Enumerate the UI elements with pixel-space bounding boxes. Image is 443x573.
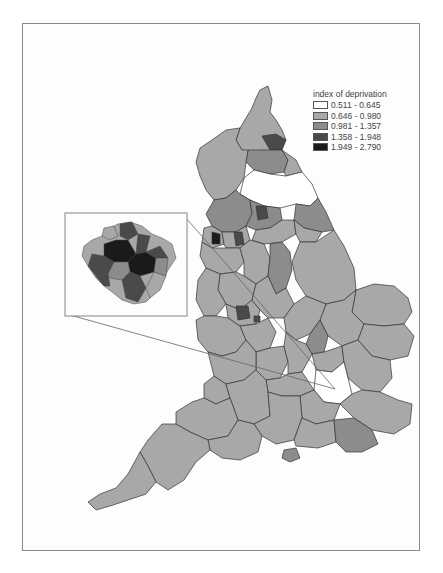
legend-item: 0.511 - 0.645 xyxy=(313,100,387,111)
legend-item: 1.358 - 1.948 xyxy=(313,132,387,143)
legend-label: 1.949 - 2.790 xyxy=(331,142,381,152)
region-birmingham xyxy=(236,306,250,320)
legend-swatch xyxy=(313,101,328,109)
legend-label: 1.358 - 1.948 xyxy=(331,132,381,142)
legend-label: 0.511 - 0.645 xyxy=(331,100,380,110)
region-norfolk xyxy=(352,284,412,326)
legend-title: index of deprivation xyxy=(313,89,387,99)
legend-swatch xyxy=(313,133,328,141)
legend: index of deprivation 0.511 - 0.645 0.646… xyxy=(313,89,387,153)
region-coventry xyxy=(254,316,260,322)
legend-swatch xyxy=(313,112,328,120)
region-bradford xyxy=(256,206,268,220)
region-manchester xyxy=(234,232,244,246)
region-liverpool xyxy=(212,232,220,244)
legend-swatch xyxy=(313,122,328,130)
legend-item: 1.949 - 2.790 xyxy=(313,142,387,153)
england-map xyxy=(0,0,443,573)
region-isle-of-wight xyxy=(282,448,300,462)
legend-label: 0.981 - 1.357 xyxy=(331,121,381,131)
legend-item: 0.981 - 1.357 xyxy=(313,121,387,132)
legend-swatch xyxy=(313,143,328,151)
region-durham xyxy=(246,150,288,174)
legend-label: 0.646 - 0.980 xyxy=(331,111,381,121)
legend-item: 0.646 - 0.980 xyxy=(313,111,387,122)
